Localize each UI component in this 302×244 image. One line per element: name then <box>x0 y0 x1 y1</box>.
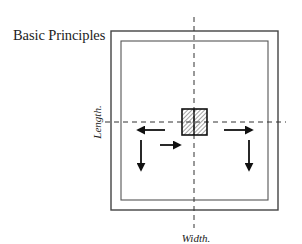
length-axis-label: Length. <box>91 105 103 138</box>
width-axis-label: Width. <box>182 232 210 244</box>
layout-diagram <box>0 0 302 244</box>
